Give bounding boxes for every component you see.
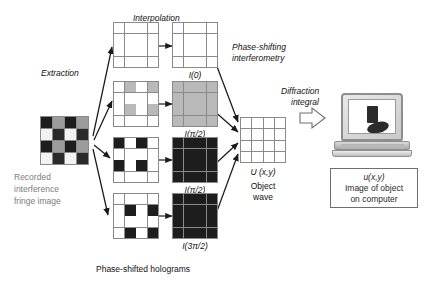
fringe-cell-2-2 — [65, 141, 76, 152]
hologram-i-pi-2-b-interp-cell-3-1 — [184, 172, 195, 183]
hologram-i-pi-2-b-sparse-cell-0-3 — [148, 138, 159, 149]
hologram-i-pi-2-b-sparse-cell-0-2 — [136, 138, 147, 149]
hologram-i-3pi-2-sparse-grid — [113, 193, 159, 239]
hologram-i-pi-2-b-sparse-cell-1-1 — [125, 149, 136, 160]
hologram-i-pi-2-a-sparse-cell-3-0 — [114, 116, 125, 127]
hologram-i-3pi-2-sparse-cell-2-0 — [114, 216, 125, 227]
label-phase-shifting: Phase-shifting — [232, 42, 286, 52]
hologram-i-pi-2-a-sparse-cell-3-1 — [125, 116, 136, 127]
hologram-i-pi-2-b-sparse-cell-0-1 — [125, 138, 136, 149]
hologram-i-3pi-2-sparse-cell-2-3 — [148, 216, 159, 227]
hologram-i-pi-2-a-interp-cell-0-2 — [195, 82, 206, 93]
hologram-i-pi-2-a-interp-cell-1-3 — [207, 93, 218, 104]
fringe-cell-1-2 — [65, 129, 76, 140]
hologram-i-pi-2-b-interp-cell-3-0 — [173, 172, 184, 183]
laptop-front-edge — [332, 150, 412, 157]
hologram-i-3pi-2-interp-cell-2-0 — [173, 216, 184, 227]
diagram-canvas: Extraction Interpolation Phase-shifting … — [0, 0, 429, 282]
hologram-i-pi-2-b-interp-cell-2-2 — [195, 160, 206, 171]
object-wave-cell-2-3 — [275, 141, 285, 151]
fringe-cell-0-0 — [41, 117, 52, 128]
source-caption-line-1: Recorded — [14, 172, 51, 182]
hologram-i-pi-2-b-interp-cell-0-0 — [173, 138, 184, 149]
fringe-cell-3-0 — [41, 153, 52, 164]
object-wave-cell-3-0 — [241, 152, 251, 162]
hologram-i-pi-2-b-interp-cell-2-0 — [173, 160, 184, 171]
label-diffraction: Diffraction — [281, 86, 319, 96]
hologram-i0-sparse-cell-2-1 — [125, 45, 136, 56]
hologram-i0-interp-cell-1-1 — [184, 34, 195, 45]
hologram-i0-interp-cell-2-1 — [184, 45, 195, 56]
hologram-i-3pi-2-interp-cell-3-1 — [184, 228, 195, 239]
hologram-i-3pi-2-sparse-cell-0-3 — [148, 194, 159, 205]
hologram-i-3pi-2-interp-cell-0-0 — [173, 194, 184, 205]
hologram-i0-sparse-cell-0-0 — [114, 23, 125, 34]
hologram-i-pi-2-b-sparse-cell-3-3 — [148, 172, 159, 183]
computer-caption-box: u(x,y) Image of object on computer — [330, 168, 418, 208]
hologram-i0-sparse-grid — [113, 22, 159, 68]
hologram-i-pi-2-a-interp-cell-0-1 — [184, 82, 195, 93]
hologram-i0-sparse-cell-3-1 — [125, 57, 136, 68]
hologram-i-3pi-2-sparse-cell-3-3 — [148, 228, 159, 239]
fringe-cell-3-1 — [53, 153, 64, 164]
hologram-i-pi-2-a-sparse-cell-2-2 — [136, 104, 147, 115]
object-wave-cell-2-1 — [252, 141, 262, 151]
object-wave-cell-1-3 — [275, 129, 285, 139]
hologram-i-3pi-2-sparse-cell-3-2 — [136, 228, 147, 239]
hologram-i-3pi-2-interp-cell-3-0 — [173, 228, 184, 239]
hologram-i-pi-2-a-sparse-cell-1-2 — [136, 93, 147, 104]
object-wave-caption-line-2: wave — [236, 192, 290, 202]
hologram-i0-interp-cell-2-3 — [207, 45, 218, 56]
label-extraction: Extraction — [41, 68, 79, 78]
hologram-i0-sparse-cell-2-0 — [114, 45, 125, 56]
hologram-i0-sparse-cell-1-1 — [125, 34, 136, 45]
source-caption-line-3: fringe image — [14, 196, 61, 206]
hologram-i0-interp-cell-3-3 — [207, 57, 218, 68]
hologram-i-pi-2-a-interp-cell-1-2 — [195, 93, 206, 104]
hologram-i-pi-2-b-interp-cell-1-0 — [173, 149, 184, 160]
hologram-i0-interp-cell-2-2 — [195, 45, 206, 56]
hologram-i-pi-2-a-sparse-cell-1-0 — [114, 93, 125, 104]
hologram-i0-interp-cell-0-0 — [173, 23, 184, 34]
hologram-i0-sparse-cell-3-2 — [136, 57, 147, 68]
fringe-cell-2-3 — [77, 141, 88, 152]
laptop-lid — [341, 93, 403, 141]
hologram-i-pi-2-a-sparse-cell-1-3 — [148, 93, 159, 104]
hologram-i-pi-2-a-interp-cell-2-2 — [195, 104, 206, 115]
hologram-i-3pi-2-interpolated-grid — [172, 193, 218, 239]
hologram-i-pi-2-a-interp-cell-1-0 — [173, 93, 184, 104]
hologram-i-pi-2-b-sparse-cell-1-0 — [114, 149, 125, 160]
fringe-cell-2-0 — [41, 141, 52, 152]
hologram-i-pi-2-b-sparse-cell-2-1 — [125, 160, 136, 171]
hologram-i-pi-2-b-interp-cell-2-3 — [207, 160, 218, 171]
hologram-i-pi-2-a-interp-cell-0-0 — [173, 82, 184, 93]
hologram-i-3pi-2-interp-cell-3-3 — [207, 228, 218, 239]
hologram-i-3pi-2-interp-cell-1-0 — [173, 205, 184, 216]
hologram-i-pi-2-a-sparse-cell-2-0 — [114, 104, 125, 115]
object-wave-cell-2-2 — [264, 141, 274, 151]
hologram-i0-sparse-cell-0-1 — [125, 23, 136, 34]
hologram-i-pi-2-b-sparse-grid — [113, 137, 159, 183]
hologram-i-pi-2-b-sparse-cell-2-2 — [136, 160, 147, 171]
hologram-i-3pi-2-interp-cell-3-2 — [195, 228, 206, 239]
source-caption-line-2: interference — [14, 184, 59, 194]
hologram-i-pi-2-a-interp-cell-2-0 — [173, 104, 184, 115]
hologram-i-3pi-2-sparse-cell-0-0 — [114, 194, 125, 205]
hologram-i0-interp-cell-0-3 — [207, 23, 218, 34]
laptop-keyboard-base — [334, 141, 410, 150]
hologram-i-pi-2-b-sparse-cell-2-3 — [148, 160, 159, 171]
computer-laptop — [332, 93, 412, 165]
fringe-cell-3-3 — [77, 153, 88, 164]
hologram-i-3pi-2-sparse-cell-0-2 — [136, 194, 147, 205]
hologram-i-pi-2-b-sparse-cell-1-2 — [136, 149, 147, 160]
hologram-i-pi-2-b-sparse-cell-0-0 — [114, 138, 125, 149]
hologram-i-pi-2-a-interp-cell-3-1 — [184, 116, 195, 127]
hologram-i-3pi-2-interp-cell-1-1 — [184, 205, 195, 216]
hologram-i-pi-2-a-sparse-cell-2-3 — [148, 104, 159, 115]
hologram-i0-sparse-cell-2-3 — [148, 45, 159, 56]
hologram-i-pi-2-b-sparse-cell-3-1 — [125, 172, 136, 183]
hologram-i-3pi-2-sparse-cell-3-1 — [125, 228, 136, 239]
hologram-i0-sparse-cell-3-0 — [114, 57, 125, 68]
hologram-i-pi-2-b-interp-cell-3-3 — [207, 172, 218, 183]
hologram-i0-sparse-cell-3-3 — [148, 57, 159, 68]
